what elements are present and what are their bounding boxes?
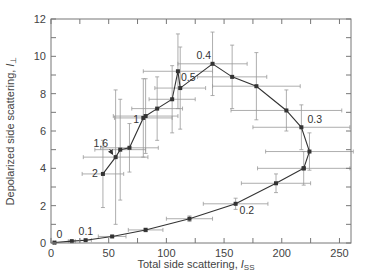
x-tick-label: 50 — [103, 247, 115, 259]
point-label: 1 — [133, 113, 139, 125]
point-label: 0.2 — [240, 204, 255, 216]
x-tick-label: 250 — [330, 247, 348, 259]
data-point-marker — [230, 75, 234, 79]
y-tick-label: 10 — [34, 50, 46, 62]
data-point-marker — [299, 125, 303, 129]
data-point-marker — [274, 181, 278, 185]
chart: 00.10.20.30.40.511.62 050100150200250 02… — [0, 0, 368, 276]
data-point-marker — [144, 228, 148, 232]
data-point-marker — [302, 166, 306, 170]
data-point-marker — [155, 107, 159, 111]
data-point-marker — [110, 234, 114, 238]
data-point-marker — [307, 150, 311, 154]
x-axis-title: Total side scattering, ISS — [137, 258, 254, 272]
y-tick-label: 12 — [34, 13, 46, 25]
x-tick-label: 0 — [48, 247, 54, 259]
data-point-marker — [187, 217, 191, 221]
point-label: 0.1 — [79, 225, 94, 237]
data-point-marker — [211, 62, 215, 66]
point-annotations: 00.10.20.30.40.511.62 — [56, 49, 322, 240]
point-label: 0 — [56, 228, 62, 240]
data-point-marker — [170, 97, 174, 101]
x-axis-ticks — [51, 19, 339, 243]
x-tick-label: 200 — [273, 247, 291, 259]
point-label: 0.3 — [307, 113, 322, 125]
point-label: 0.4 — [197, 49, 212, 61]
y-tick-label: 6 — [40, 125, 46, 137]
y-tick-label: 0 — [40, 237, 46, 249]
data-lines — [54, 64, 309, 243]
y-axis-title: Depolarized side scattering, I⊥ — [4, 57, 18, 206]
y-tick-label: 2 — [40, 200, 46, 212]
point-label: 1.6 — [94, 137, 109, 149]
data-point-marker — [144, 114, 148, 118]
y-axis-tick-labels: 024681012 — [34, 13, 46, 249]
data-point-marker — [178, 86, 182, 90]
data-point-marker — [176, 69, 180, 73]
data-point-marker — [118, 148, 122, 152]
data-point-marker — [101, 172, 105, 176]
y-tick-label: 8 — [40, 88, 46, 100]
data-point-marker — [284, 108, 288, 112]
data-markers — [52, 62, 311, 245]
point-label: 0.5 — [181, 71, 196, 83]
y-tick-label: 4 — [40, 162, 46, 174]
point-label: 2 — [92, 167, 98, 179]
data-point-marker — [234, 202, 238, 206]
data-point-marker — [84, 238, 88, 242]
data-point-marker — [127, 146, 131, 150]
data-point-marker — [254, 84, 258, 88]
data-point-marker — [114, 155, 118, 159]
